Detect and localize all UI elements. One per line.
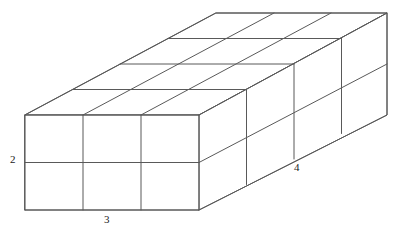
- dimension-label-depth: 4: [294, 162, 300, 173]
- dimension-label-width: 3: [104, 214, 110, 225]
- dimension-label-height: 2: [10, 154, 16, 165]
- prism-drawing: [0, 0, 405, 237]
- prism-faces: [25, 13, 387, 210]
- prism-figure: 2 3 4: [0, 0, 405, 237]
